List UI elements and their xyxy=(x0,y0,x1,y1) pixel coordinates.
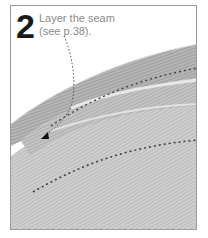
caption-line-2: (see p.38). xyxy=(39,25,115,38)
step-caption: Layer the seam (see p.38). xyxy=(39,12,115,38)
caption-line-1: Layer the seam xyxy=(39,12,115,25)
step-illustration-frame: 2 Layer the seam (see p.38). xyxy=(10,5,197,230)
step-number: 2 xyxy=(16,9,34,43)
fabric-seam-illustration xyxy=(11,6,197,230)
